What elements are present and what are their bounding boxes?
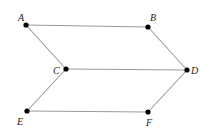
point-label-a: A bbox=[17, 12, 25, 23]
point-label-e: E bbox=[16, 116, 23, 127]
point-label-c: C bbox=[53, 65, 60, 76]
point-d bbox=[184, 67, 189, 72]
geometry-diagram: ABCDEF bbox=[0, 0, 211, 136]
segment-bd bbox=[148, 27, 187, 70]
point-label-d: D bbox=[190, 65, 199, 76]
segment-cd bbox=[66, 69, 187, 70]
point-f bbox=[145, 109, 150, 114]
point-a bbox=[23, 22, 28, 27]
segment-df bbox=[148, 70, 187, 112]
segment-ce bbox=[27, 69, 66, 111]
segment-ef bbox=[27, 111, 148, 112]
segment-ab bbox=[26, 25, 148, 27]
point-label-f: F bbox=[145, 117, 153, 128]
segment-ac bbox=[26, 25, 66, 69]
point-b bbox=[145, 24, 150, 29]
point-c bbox=[63, 66, 68, 71]
edges bbox=[26, 25, 187, 112]
point-label-b: B bbox=[150, 12, 156, 23]
point-e bbox=[24, 108, 29, 113]
points bbox=[23, 22, 189, 114]
